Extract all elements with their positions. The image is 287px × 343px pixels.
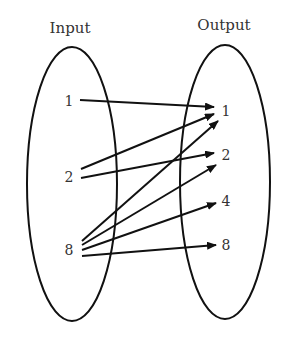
- mapping-diagram: Input Output 1 2 8 1 2 4 8: [0, 0, 287, 343]
- arrow-8-to-8: [82, 245, 216, 256]
- arrow-8-to-2: [82, 165, 216, 245]
- input-value-8: 8: [65, 242, 74, 258]
- arrow-8-to-4: [82, 203, 216, 250]
- input-value-1: 1: [65, 93, 74, 109]
- arrow-2-to-2: [81, 153, 214, 178]
- output-value-1: 1: [222, 103, 231, 119]
- output-value-2: 2: [222, 147, 231, 163]
- output-set-ellipse: [180, 45, 270, 319]
- input-set-title: Input: [50, 19, 91, 37]
- input-value-2: 2: [65, 169, 74, 185]
- arrow-8-to-1: [82, 121, 218, 241]
- output-set-title: Output: [197, 16, 250, 34]
- arrow-1-to-1: [80, 100, 214, 107]
- output-value-8: 8: [222, 237, 231, 253]
- output-value-4: 4: [222, 193, 231, 209]
